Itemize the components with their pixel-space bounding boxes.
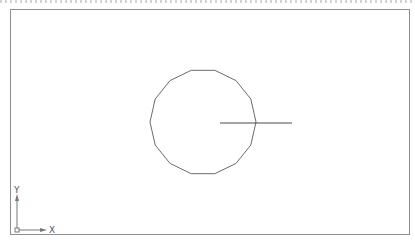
ucs-axis-icon: Y X <box>13 185 55 235</box>
y-arrow-icon <box>15 194 19 201</box>
x-arrow-icon <box>40 228 47 232</box>
drawing-canvas[interactable]: Y X <box>0 0 415 242</box>
origin-box-icon <box>15 228 19 232</box>
polygon-shape[interactable] <box>150 70 256 173</box>
y-axis-label: Y <box>13 185 20 195</box>
x-axis-label: X <box>49 225 55 235</box>
